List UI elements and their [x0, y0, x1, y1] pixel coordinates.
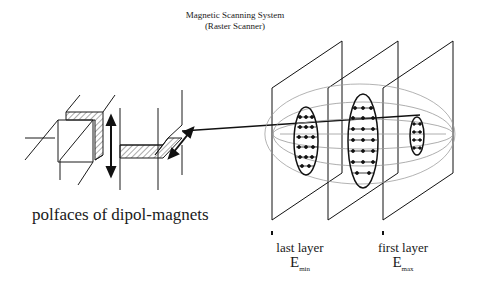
- title-line-2: (Raster Scanner): [186, 21, 285, 32]
- layer-markers: [271, 231, 384, 235]
- last-layer-text: last layer: [276, 241, 323, 255]
- vertical-scan-arrow: [107, 116, 115, 176]
- magnets-label: polfaces of dipol-magnets: [32, 205, 209, 225]
- title-line-1: Magnetic Scanning System: [186, 10, 285, 21]
- last-layer-label: last layer Emin: [276, 241, 323, 276]
- diagram-title: Magnetic Scanning System (Raster Scanner…: [186, 10, 285, 32]
- energy-max: Emax: [378, 255, 428, 276]
- first-layer-label: first layer Emax: [378, 241, 428, 276]
- dipole-magnet-horizontal: [120, 90, 182, 190]
- target-volume: [265, 84, 455, 184]
- energy-min: Emin: [276, 255, 323, 276]
- spot-grid-middle: [349, 107, 377, 175]
- dipole-magnet-vertical: [25, 95, 115, 185]
- first-layer-text: first layer: [378, 241, 428, 255]
